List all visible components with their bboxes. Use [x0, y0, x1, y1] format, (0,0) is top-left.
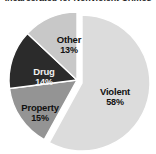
chart-title: Incarcerated for Nonviolent Crimes	[0, 0, 156, 3]
pie-chart-figure: Incarcerated for Nonviolent Crimes Viole…	[0, 0, 156, 154]
pie-chart-svg	[0, 8, 156, 154]
pie-chart-plot-area: Violent 58% Property 15% Drug 14% Other …	[0, 8, 156, 154]
